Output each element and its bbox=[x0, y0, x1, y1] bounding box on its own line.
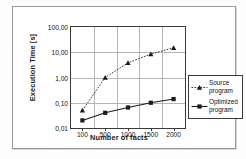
y-tick-label: 1,00 bbox=[36, 74, 68, 81]
data-point-marker bbox=[171, 45, 176, 50]
legend-item: Sourceprogram bbox=[191, 80, 241, 97]
legend-label-line2: program bbox=[209, 106, 242, 114]
y-tick-label: 0,01 bbox=[36, 125, 68, 132]
data-point-marker bbox=[125, 60, 130, 65]
data-point-marker bbox=[103, 111, 107, 115]
data-point-marker bbox=[80, 108, 85, 113]
legend-label: Sourceprogram bbox=[209, 79, 242, 94]
data-point-marker bbox=[80, 118, 84, 122]
figure-frame: Execution Time [s] 100,0010,001,000,100,… bbox=[12, 6, 236, 149]
legend-label: Optimizedprogram bbox=[209, 98, 242, 113]
legend-label-line1: Source bbox=[209, 79, 242, 87]
chart-figure: Execution Time [s] 100,0010,001,000,100,… bbox=[0, 0, 246, 159]
data-point-marker bbox=[103, 75, 108, 80]
data-point-marker bbox=[197, 104, 201, 108]
legend-marker-triangle-icon bbox=[191, 83, 208, 92]
plot-area: 100,0010,001,000,100,01 1005001000150020… bbox=[70, 26, 186, 129]
data-point-marker bbox=[126, 105, 130, 109]
y-tick-label: 0,10 bbox=[36, 99, 68, 106]
y-tick-label: 10,00 bbox=[36, 49, 68, 56]
legend-marker-square-icon bbox=[191, 102, 208, 111]
legend-label-line1: Optimized bbox=[209, 98, 242, 106]
y-tick-label: 100,00 bbox=[36, 24, 68, 31]
chart-legend: SourceprogramOptimizedprogram bbox=[188, 75, 243, 119]
data-point-marker bbox=[149, 101, 153, 105]
data-series-layer bbox=[71, 27, 185, 128]
legend-item: Optimizedprogram bbox=[191, 99, 241, 116]
data-point-marker bbox=[172, 97, 176, 101]
legend-label-line2: program bbox=[209, 87, 242, 95]
series-line bbox=[82, 99, 173, 120]
x-axis-label: Number of facts bbox=[59, 133, 179, 142]
